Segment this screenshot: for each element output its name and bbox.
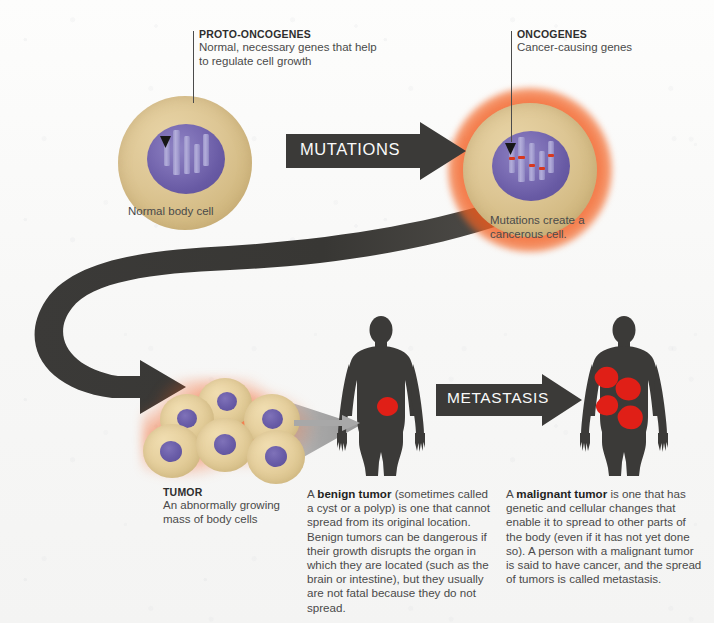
malignant-rest: is one that has genetic and cellular cha…	[506, 487, 701, 585]
tumor-cell	[247, 430, 305, 484]
benign-lead: A	[307, 487, 317, 500]
proto-oncogenes-heading: PROTO-ONCOGENES	[199, 28, 389, 40]
mutation-band	[509, 157, 515, 160]
benign-body-silhouette	[325, 316, 437, 476]
malignant-bold-term: malignant tumor	[516, 487, 607, 500]
tumor-cell-nucleus	[265, 446, 287, 467]
chromosome-mutated	[529, 143, 535, 181]
oncogenes-leader-line	[511, 31, 512, 142]
mutations-arrow-label: MUTATIONS	[300, 140, 400, 159]
tumor-cell	[196, 418, 254, 472]
mutation-band	[539, 167, 545, 170]
tumor-cell-nucleus	[217, 392, 237, 411]
malignant-body-silhouette	[568, 316, 680, 476]
oncogenes-heading: ONCOGENES	[517, 28, 667, 40]
chromosome	[203, 134, 209, 166]
mutation-band	[548, 154, 554, 157]
chromosome	[194, 144, 200, 173]
proto-oncogenes-leader-line	[193, 31, 194, 103]
tumor-body: An abnormally growing mass of body cells	[163, 499, 293, 526]
tumor-cell-nucleus	[214, 434, 236, 455]
proto-oncogenes-body: Normal, necessary genes that help to reg…	[199, 41, 389, 68]
tumor-callout: TUMOR An abnormally growing mass of body…	[163, 486, 293, 526]
malignant-tumor-paragraph: A malignant tumor is one that has geneti…	[506, 487, 702, 586]
tumor-heading: TUMOR	[163, 486, 293, 498]
tumor-cell-nucleus	[262, 409, 283, 429]
mutation-band	[529, 164, 535, 167]
tumor-cell-nucleus	[160, 441, 182, 462]
chromosome	[184, 136, 190, 174]
malignant-lead: A	[506, 487, 516, 500]
benign-bold-term: benign tumor	[317, 487, 391, 500]
chromosome-mutated	[518, 137, 525, 182]
mutation-band	[518, 156, 525, 159]
benign-tumor-paragraph: A benign tumor (sometimes called a cyst …	[307, 487, 495, 615]
cancerous-cell-caption: Mutations create a cancerous cell.	[490, 214, 610, 241]
normal-body-cell-caption: Normal body cell	[128, 205, 288, 219]
diagram-canvas: PROTO-ONCOGENES Normal, necessary genes …	[0, 0, 714, 623]
malignant-tumor-spot	[596, 395, 618, 415]
metastasis-arrow-label: METASTASIS	[447, 389, 549, 407]
proto-oncogenes-callout: PROTO-ONCOGENES Normal, necessary genes …	[199, 28, 389, 68]
oncogenes-callout: ONCOGENES Cancer-causing genes	[517, 28, 667, 55]
chromosome-mutated	[548, 141, 554, 173]
chromosome-mutated	[539, 151, 545, 180]
chromosome	[173, 130, 180, 175]
tumor-location-pointer-arrow	[294, 415, 360, 431]
tumor-cell	[143, 424, 201, 478]
oncogenes-body: Cancer-causing genes	[517, 41, 667, 55]
benign-rest: (sometimes called a cyst or a polyp) is …	[307, 487, 490, 614]
tumor-cell-cluster	[140, 376, 325, 486]
oncogene-pointer-arrowhead	[504, 141, 518, 157]
proto-oncogene-pointer-arrowhead	[159, 134, 173, 150]
